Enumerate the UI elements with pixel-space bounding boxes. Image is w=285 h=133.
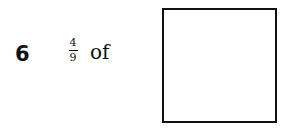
question-text: of [90, 40, 109, 64]
fraction: 4 9 [66, 37, 80, 64]
question-number: 6 [15, 42, 30, 66]
fraction-numerator: 4 [70, 37, 77, 49]
answer-box[interactable] [162, 8, 277, 123]
fraction-denominator: 9 [70, 52, 77, 64]
